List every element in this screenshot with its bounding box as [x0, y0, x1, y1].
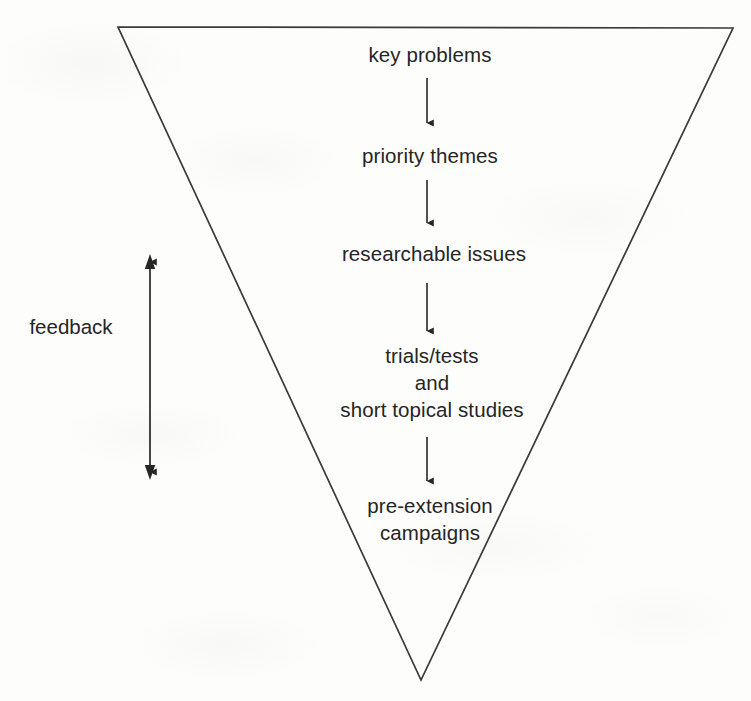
stage-line: priority themes	[362, 142, 498, 169]
stage-label-pre-extension-campaigns: pre-extension campaigns	[367, 492, 493, 546]
stage-label-trials-tests: trials/tests and short topical studies	[340, 342, 523, 423]
stage-line: short topical studies	[340, 396, 523, 423]
diagram-canvas: key problems priority themes researchabl…	[0, 0, 751, 701]
stage-label-key-problems: key problems	[368, 41, 491, 68]
stage-line: campaigns	[367, 519, 493, 546]
stage-line: trials/tests	[340, 342, 523, 369]
stage-label-researchable-issues: researchable issues	[342, 240, 526, 267]
feedback-arrowhead-up-icon	[145, 254, 155, 269]
feedback-label: feedback	[29, 314, 112, 340]
stage-label-priority-themes: priority themes	[362, 142, 498, 169]
stage-line: key problems	[368, 41, 491, 68]
stage-line: and	[340, 369, 523, 396]
stage-line: researchable issues	[342, 240, 526, 267]
stage-line: pre-extension	[367, 492, 493, 519]
feedback-arrowhead-down-icon	[145, 465, 155, 480]
